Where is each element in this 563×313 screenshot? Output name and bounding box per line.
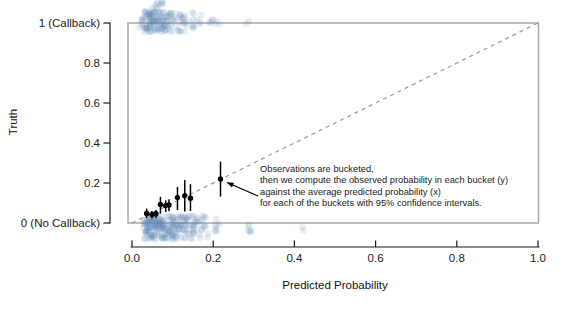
scatter-point bbox=[169, 233, 176, 240]
bucket-point bbox=[166, 202, 171, 207]
scatter-point bbox=[198, 12, 205, 19]
scatter-point bbox=[182, 12, 189, 19]
scatter-point bbox=[139, 18, 146, 25]
scatter-point bbox=[149, 5, 156, 12]
calibration-plot-canvas: 0 (No Callback)0.20.40.60.81 (Callback)0… bbox=[0, 0, 563, 313]
scatter-point bbox=[193, 227, 200, 234]
scatter-point bbox=[146, 13, 153, 20]
scatter-point bbox=[141, 235, 148, 242]
y-tick-label: 0 (No Callback) bbox=[21, 217, 100, 229]
y-tick-label: 0.2 bbox=[84, 177, 100, 189]
x-axis-title: Predicted Probability bbox=[132, 279, 538, 291]
scatter-point bbox=[165, 222, 172, 229]
bucket-points bbox=[144, 162, 223, 219]
scatter-point bbox=[248, 229, 255, 236]
scatter-point bbox=[246, 18, 253, 25]
bucket-point bbox=[182, 193, 187, 198]
scatter-point bbox=[201, 213, 208, 220]
x-tick-label: 0.8 bbox=[449, 252, 465, 264]
x-tick-label: 0.4 bbox=[286, 252, 303, 264]
scatter-point bbox=[205, 230, 212, 237]
scatter-point bbox=[202, 223, 209, 230]
annotation-arrow bbox=[227, 183, 258, 197]
y-tick-label: 0.4 bbox=[84, 137, 101, 149]
x-tick-label: 1.0 bbox=[530, 252, 546, 264]
y-axis-title: Truth bbox=[7, 62, 19, 182]
scatter-point bbox=[180, 214, 187, 221]
scatter-point bbox=[181, 235, 188, 242]
bucket-point bbox=[218, 176, 223, 181]
scatter-point bbox=[144, 227, 151, 234]
scatter-point bbox=[146, 28, 153, 35]
scatter-point bbox=[214, 227, 221, 234]
scatter-point bbox=[181, 28, 188, 35]
bucket-point bbox=[188, 196, 193, 201]
scatter-point bbox=[245, 222, 252, 229]
scatter-point bbox=[165, 18, 172, 25]
x-tick-label: 0.0 bbox=[124, 252, 140, 264]
scatter-point bbox=[182, 229, 189, 236]
scatter-point bbox=[214, 18, 221, 25]
x-tick-label: 0.2 bbox=[205, 252, 221, 264]
bucket-point bbox=[144, 211, 149, 216]
bucket-point bbox=[153, 211, 158, 216]
bucket-point bbox=[158, 202, 163, 207]
scatter-point bbox=[190, 22, 197, 29]
y-axis bbox=[104, 22, 111, 223]
scatter-point bbox=[197, 235, 204, 242]
scatter-point bbox=[169, 29, 176, 36]
scatter-point bbox=[197, 21, 204, 28]
scatter-point bbox=[172, 16, 179, 23]
bucket-point bbox=[175, 195, 180, 200]
y-tick-label: 0.8 bbox=[84, 57, 100, 69]
calibration-plot-figure: 0 (No Callback)0.20.40.60.81 (Callback)0… bbox=[0, 0, 563, 313]
scatter-point bbox=[189, 9, 196, 16]
y-tick-label: 1 (Callback) bbox=[39, 17, 101, 29]
y-tick-label: 0.6 bbox=[84, 97, 100, 109]
scatter-point bbox=[299, 224, 306, 231]
annotation-arrowhead bbox=[227, 183, 234, 188]
scatter-point bbox=[189, 235, 196, 242]
x-tick-label: 0.6 bbox=[368, 252, 384, 264]
annotation-text: Observations are bucketed, then we compu… bbox=[260, 164, 508, 210]
scatter-point bbox=[181, 222, 188, 229]
